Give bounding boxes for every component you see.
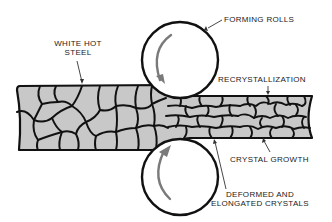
arrowhead-deformed-crystals [213,139,217,144]
label-crystal-growth: CRYSTAL GROWTH [230,155,309,164]
label-deformed-line2: ELONGATED CRYSTALS [205,199,315,208]
label-forming-rolls: FORMING ROLLS [224,15,294,24]
label-white-hot-steel-line1: WHITE HOT [48,39,108,48]
top-forming-roll [142,22,218,98]
arrowhead-recrystallization [266,91,270,95]
label-white-hot-steel: WHITE HOT STEEL [48,39,108,57]
leader-crystal-growth [264,141,270,152]
label-deformed-crystals: DEFORMED AND ELONGATED CRYSTALS [205,190,315,208]
label-white-hot-steel-line2: STEEL [48,48,108,57]
label-recrystallization: RECRYSTALLIZATION [218,75,306,84]
arrowhead-white-hot-steel [80,79,84,84]
leader-white-hot-steel [77,61,82,82]
label-deformed-line1: DEFORMED AND [205,190,315,199]
top-roll-circle [142,22,218,98]
leader-forming-rolls [208,20,222,28]
rolling-diagram [0,0,332,222]
